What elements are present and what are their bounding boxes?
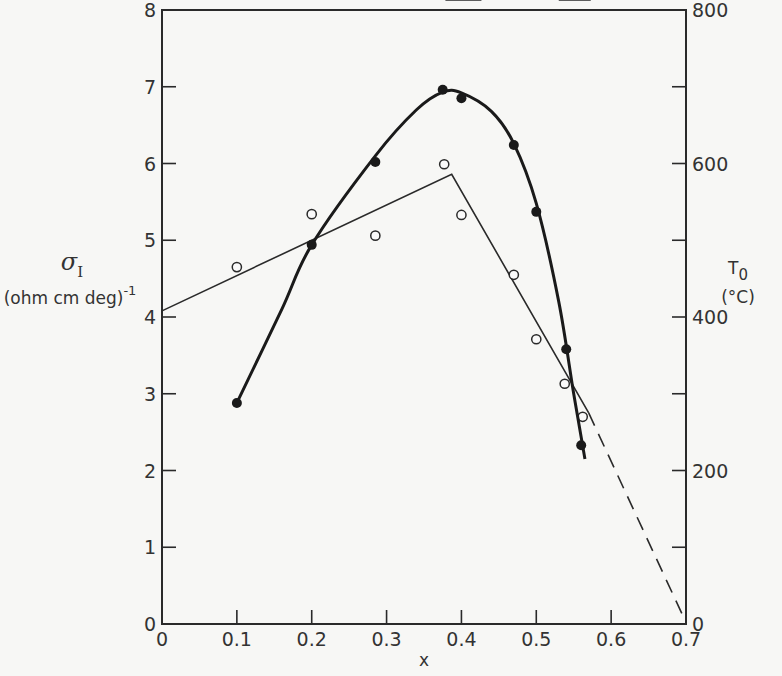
left-y-tick-label: 2: [144, 460, 156, 482]
right-y-tick-label: 800: [692, 0, 728, 21]
left-axis-subscript: I: [77, 263, 83, 281]
right-y-tick-label: 400: [692, 306, 728, 328]
left-axis-units: (ohm cm deg): [4, 288, 124, 308]
t0-data-point: [232, 398, 242, 408]
left-y-tick-label: 0: [144, 613, 156, 635]
left-y-tick-label: 3: [144, 383, 156, 405]
sigma-data-point: [371, 231, 380, 240]
right-axis-label: T0 (°C): [721, 258, 755, 307]
chart: 00.10.20.30.40.50.60.7012345678020040060…: [0, 0, 782, 676]
sigma-extrapolation-dashed: [589, 413, 686, 623]
sigma-data-point: [440, 160, 449, 169]
sigma-series: [162, 160, 686, 623]
t0-data-point: [307, 240, 317, 250]
left-y-tick-label: 1: [144, 536, 156, 558]
right-y-tick-label: 200: [692, 460, 728, 482]
t0-data-point: [438, 85, 448, 95]
sigma-data-point: [457, 210, 466, 219]
axis-ticks: [162, 87, 686, 624]
right-axis-symbol: T: [727, 258, 739, 278]
t0-data-point: [576, 440, 586, 450]
left-y-tick-label: 8: [144, 0, 156, 21]
x-tick-label: 0: [156, 628, 168, 650]
svg-text:(ohm cm deg)-1: (ohm cm deg)-1: [4, 283, 137, 308]
left-y-tick-label: 6: [144, 153, 156, 175]
tick-labels: 00.10.20.30.40.50.60.7012345678020040060…: [144, 0, 728, 650]
t0-series: [232, 85, 586, 459]
right-axis-units: (°C): [721, 287, 755, 307]
sigma-data-point: [509, 270, 518, 279]
t0-data-point: [509, 140, 519, 150]
right-axis-subscript: 0: [738, 266, 748, 284]
x-tick-label: 0.6: [596, 628, 626, 650]
left-y-tick-label: 5: [144, 229, 156, 251]
left-y-tick-label: 7: [144, 76, 156, 98]
t0-data-point: [561, 344, 571, 354]
x-axis-label: x: [419, 650, 429, 670]
sigma-data-point: [232, 263, 241, 272]
sigma-fit-line: [162, 174, 589, 413]
left-axis-units-exponent: -1: [123, 283, 136, 298]
x-tick-label: 0.5: [521, 628, 551, 650]
x-tick-label: 0.3: [371, 628, 401, 650]
sigma-data-point: [560, 379, 569, 388]
sigma-data-point: [532, 335, 541, 344]
right-y-tick-label: 600: [692, 153, 728, 175]
svg-text:T0: T0: [727, 258, 748, 284]
sigma-data-point: [307, 210, 316, 219]
x-tick-label: 0.4: [446, 628, 476, 650]
t0-data-point: [456, 93, 466, 103]
left-y-tick-label: 4: [144, 306, 156, 328]
svg-text:σI: σI: [61, 248, 83, 281]
left-axis-symbol: σ: [61, 248, 78, 276]
t0-fit-curve: [237, 90, 585, 459]
t0-data-point: [370, 157, 380, 167]
x-tick-label: 0.1: [222, 628, 252, 650]
right-y-tick-label: 0: [692, 613, 704, 635]
x-tick-label: 0.2: [297, 628, 327, 650]
t0-data-point: [531, 207, 541, 217]
left-axis-label: σI (ohm cm deg)-1: [4, 248, 137, 308]
